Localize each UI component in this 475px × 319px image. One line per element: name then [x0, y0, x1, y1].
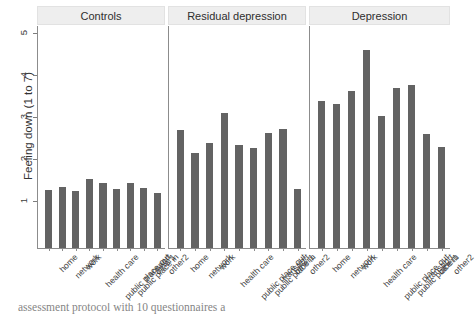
bar — [113, 189, 120, 248]
caption-text: assessment protocol with 10 questionnair… — [18, 303, 225, 313]
bar — [191, 153, 199, 248]
bar — [393, 88, 401, 248]
bar — [408, 85, 416, 248]
x-axis-tick-mark — [268, 248, 269, 251]
bar-group — [310, 26, 450, 248]
chart-panel: Controls — [37, 6, 165, 249]
bar — [363, 50, 371, 248]
y-axis-title: Feeling down (1 to 7) — [22, 36, 34, 216]
bar — [154, 193, 161, 248]
plot-region — [37, 26, 165, 249]
x-axis-tick-mark — [76, 248, 77, 251]
x-axis-line — [310, 248, 450, 249]
x-axis-tick-mark — [382, 248, 383, 251]
bar — [348, 91, 356, 248]
bar — [177, 130, 185, 248]
x-axis-tick-mark — [117, 248, 118, 251]
bar — [250, 148, 258, 248]
bar — [438, 147, 446, 248]
bar-group — [169, 26, 306, 248]
x-axis-tick-mark — [254, 248, 255, 251]
bar — [318, 101, 326, 248]
bar — [140, 188, 147, 248]
page-caption: assessment protocol with 10 questionnair… — [0, 303, 452, 319]
bar — [99, 183, 106, 248]
bar — [86, 179, 93, 248]
panel-strip-header: Controls — [37, 6, 165, 25]
x-axis-tick-mark — [427, 248, 428, 251]
x-axis-tick-mark — [412, 248, 413, 251]
x-axis-tick-mark — [157, 248, 158, 251]
x-axis-tick-mark — [367, 248, 368, 251]
x-axis-tick-mark — [337, 248, 338, 251]
plot-region — [168, 26, 306, 249]
x-axis-line — [169, 248, 306, 249]
bar — [279, 129, 287, 248]
bar — [127, 183, 134, 248]
x-axis-tick-mark — [322, 248, 323, 251]
bar — [59, 187, 66, 248]
bar — [72, 191, 79, 248]
x-axis-tick-mark — [62, 248, 63, 251]
bar — [265, 133, 273, 248]
panel-strip-header: Residual depression — [168, 6, 306, 25]
x-axis-tick-mark — [239, 248, 240, 251]
x-axis-tick-mark — [224, 248, 225, 251]
panel-strip-header: Depression — [309, 6, 450, 25]
bar — [206, 143, 214, 248]
x-axis-tick-mark — [210, 248, 211, 251]
x-axis-tick-mark — [298, 248, 299, 251]
chart-panel: Depression — [309, 6, 450, 249]
y-axis-tick-label: 5 — [18, 26, 29, 40]
bar — [294, 189, 302, 248]
x-axis-tick-mark — [144, 248, 145, 251]
x-axis-tick-mark — [89, 248, 90, 251]
bar — [235, 145, 243, 248]
x-axis-tick-mark — [352, 248, 353, 251]
x-axis-tick-mark — [180, 248, 181, 251]
x-axis-tick-mark — [130, 248, 131, 251]
x-axis-line — [38, 248, 165, 249]
bar — [423, 134, 431, 248]
bar — [45, 190, 52, 248]
x-axis-tick-mark — [195, 248, 196, 251]
y-axis-tick-label: 4 — [18, 68, 29, 82]
y-axis-tick-label: 3 — [18, 110, 29, 124]
x-axis-tick-mark — [49, 248, 50, 251]
panel-strip-label: Depression — [310, 10, 449, 22]
x-axis-tick-mark — [442, 248, 443, 251]
bar — [333, 104, 341, 248]
x-axis-tick-mark — [283, 248, 284, 251]
x-axis-tick-mark — [397, 248, 398, 251]
bar-group — [38, 26, 165, 248]
bar — [378, 116, 386, 248]
panel-strip-label: Residual depression — [169, 10, 305, 22]
panel-strip-label: Controls — [38, 10, 164, 22]
bar — [221, 113, 229, 248]
y-axis-tick-label: 1 — [18, 194, 29, 208]
x-axis-tick-mark — [103, 248, 104, 251]
plot-region — [309, 26, 450, 249]
chart-panel: Residual depression — [168, 6, 306, 249]
y-axis-tick-label: 2 — [18, 152, 29, 166]
